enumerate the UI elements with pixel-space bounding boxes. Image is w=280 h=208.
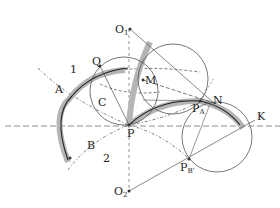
label-b: B bbox=[87, 140, 95, 151]
label-c: C bbox=[98, 97, 106, 108]
pitch-arc-right-2 bbox=[129, 125, 189, 159]
diagram-canvas: O1 O2 P Q M C A B N K PA PB' 1 2 bbox=[0, 0, 280, 208]
construction-drawing bbox=[0, 0, 280, 208]
label-pa: PA bbox=[192, 103, 204, 116]
label-m: M bbox=[145, 75, 156, 86]
label-o2: O2 bbox=[114, 186, 128, 199]
label-k: K bbox=[257, 111, 265, 122]
label-pb: PB' bbox=[180, 162, 194, 175]
profile-band-right bbox=[129, 101, 243, 128]
point-pb bbox=[188, 158, 191, 161]
line-o2-k bbox=[129, 120, 255, 191]
point-m bbox=[142, 79, 145, 82]
label-n: N bbox=[213, 95, 223, 106]
label-p: P bbox=[127, 128, 134, 139]
label-q: Q bbox=[92, 56, 101, 67]
point-o2 bbox=[128, 190, 131, 193]
label-a: A bbox=[55, 84, 63, 95]
line-n-ext bbox=[200, 78, 214, 101]
pitch-arc-2 bbox=[68, 125, 129, 170]
point-o1 bbox=[129, 28, 132, 31]
label-region-2: 2 bbox=[103, 153, 110, 164]
point-left-end bbox=[69, 157, 72, 160]
label-o1: O1 bbox=[115, 24, 129, 37]
label-region-1: 1 bbox=[70, 64, 77, 75]
